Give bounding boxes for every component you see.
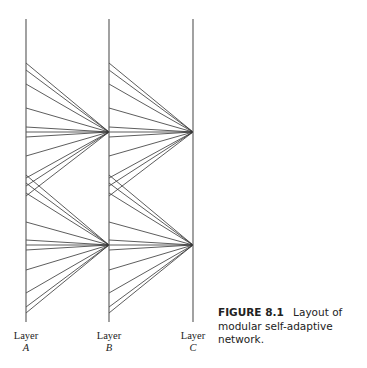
connection-edge xyxy=(26,63,109,132)
figure-caption: FIGURE 8.1 Layout of modular self-adapti… xyxy=(218,306,367,347)
connection-edge xyxy=(26,127,109,132)
connection-edge xyxy=(109,84,193,132)
layer-c-letter: C xyxy=(173,342,213,354)
connection-edge xyxy=(109,240,193,245)
connection-edge xyxy=(26,84,109,132)
layer-a-name: Layer xyxy=(6,330,46,342)
layer-lines xyxy=(26,19,193,322)
connection-edge xyxy=(26,222,109,245)
connection-edge xyxy=(26,70,109,132)
connection-edge xyxy=(109,70,193,132)
connection-edge xyxy=(109,132,193,156)
connection-edge xyxy=(26,245,109,293)
connection-edge xyxy=(109,245,193,307)
connection-edge xyxy=(109,222,193,245)
figure-number: FIGURE 8.1 xyxy=(218,306,284,318)
connection-edge xyxy=(26,245,109,250)
connection-edge xyxy=(26,132,109,186)
connection-edge xyxy=(26,132,109,137)
connection-edge xyxy=(26,183,109,245)
connection-edge xyxy=(109,108,193,132)
connection-edge xyxy=(26,132,109,178)
layer-c-label: Layer C xyxy=(173,330,213,354)
connection-edge xyxy=(109,245,193,313)
connection-edge xyxy=(109,132,193,137)
connection-edge xyxy=(109,183,193,245)
connection-edge xyxy=(109,175,193,245)
connection-edge xyxy=(26,245,109,307)
connection-edge xyxy=(109,63,193,132)
connection-edge xyxy=(109,245,193,270)
connection-edge xyxy=(109,193,193,245)
connection-edge xyxy=(26,132,109,156)
layer-c-name: Layer xyxy=(173,330,213,342)
connection-edge xyxy=(26,108,109,132)
connection-edge xyxy=(109,245,193,250)
connection-edge xyxy=(109,132,193,196)
connection-edge xyxy=(109,245,193,293)
layer-b-label: Layer B xyxy=(89,330,129,354)
connection-edge xyxy=(26,175,109,245)
connection-edge xyxy=(26,245,109,270)
connection-edge xyxy=(109,132,193,186)
connection-edge xyxy=(109,127,193,132)
connection-edge xyxy=(109,132,193,178)
layer-a-letter: A xyxy=(6,342,46,354)
layer-b-letter: B xyxy=(89,342,129,354)
layer-b-name: Layer xyxy=(89,330,129,342)
connection-edge xyxy=(26,132,109,196)
connection-edge xyxy=(26,240,109,245)
connection-edge xyxy=(26,245,109,313)
connection-edge xyxy=(26,193,109,245)
layer-a-label: Layer A xyxy=(6,330,46,354)
